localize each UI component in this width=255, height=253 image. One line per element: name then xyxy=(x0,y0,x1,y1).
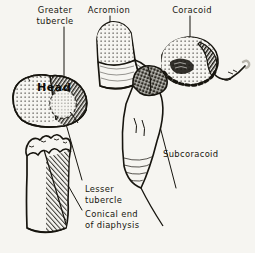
label-head: Head xyxy=(37,83,71,94)
figure-caption xyxy=(0,244,255,253)
subcoracoid-wedge xyxy=(133,66,167,96)
label-subcoracoid: Subcoracoid xyxy=(163,149,218,160)
label-lesser-tubercle: Lesser tubercle xyxy=(85,184,122,205)
label-coracoid: Coracoid xyxy=(148,5,236,16)
label-conical-end: Conical end of diaphysis xyxy=(85,209,139,230)
label-acromion: Acromion xyxy=(63,5,155,16)
